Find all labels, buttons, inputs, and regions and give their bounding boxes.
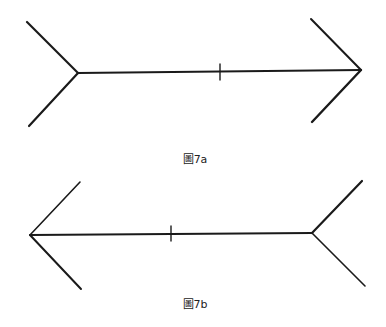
- figure-7a-arrowhead-bottom: [312, 70, 361, 122]
- figure-7a-caption: 圖7a: [183, 150, 208, 166]
- figure-7a: [27, 19, 361, 126]
- figure-7a-left-fin-bottom: [29, 73, 78, 126]
- figure-7b-right-fin-top: [312, 181, 362, 233]
- figure-7b: [30, 181, 365, 289]
- figure-7b-arrowhead-bottom: [30, 235, 81, 289]
- figure-7a-arrowhead-top: [311, 19, 361, 70]
- figure-7b-caption: 圖7b: [183, 295, 208, 311]
- figure-7b-arrowhead-top: [30, 182, 80, 235]
- figure-7a-left-fin-top: [27, 22, 78, 73]
- figure-7b-right-fin-bottom: [312, 233, 365, 286]
